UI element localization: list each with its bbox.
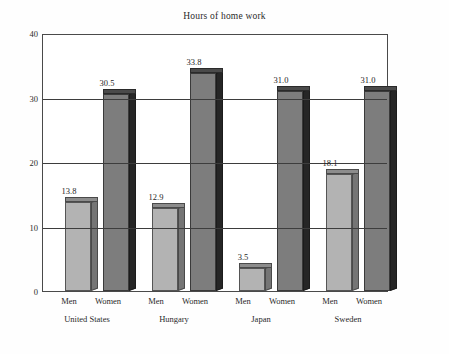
bar-united-states-men[interactable] bbox=[65, 202, 91, 291]
x-label-united-states-women: Women bbox=[86, 296, 130, 306]
bar-side-face bbox=[91, 199, 98, 291]
x-label-japan-women: Women bbox=[260, 296, 304, 306]
x-label-united-states-men: Men bbox=[50, 296, 88, 306]
x-group-label-hungary: Hungary bbox=[130, 314, 218, 324]
bar-value-japan-women: 31.0 bbox=[264, 75, 298, 85]
bar-front-face bbox=[326, 174, 352, 291]
bar-front-face bbox=[190, 73, 216, 291]
bar-value-hungary-men: 12.9 bbox=[139, 192, 173, 202]
y-axis: 0 10 20 30 40 bbox=[0, 34, 38, 292]
x-group-label-sweden: Sweden bbox=[304, 314, 392, 324]
bar-value-sweden-men: 18.1 bbox=[313, 158, 347, 168]
bar-side-face bbox=[178, 205, 185, 291]
bar-japan-men[interactable] bbox=[239, 268, 265, 291]
bar-top-face bbox=[326, 169, 359, 174]
bar-side-face bbox=[352, 171, 359, 291]
bar-hungary-women[interactable] bbox=[190, 73, 216, 291]
bar-front-face bbox=[103, 94, 129, 291]
bar-sweden-men[interactable] bbox=[326, 174, 352, 291]
gridline-10 bbox=[43, 228, 387, 229]
y-tick-label-10: 10 bbox=[4, 223, 38, 233]
x-label-sweden-women: Women bbox=[347, 296, 391, 306]
bar-sweden-women[interactable] bbox=[364, 91, 390, 291]
y-tick-label-20: 20 bbox=[4, 158, 38, 168]
x-group-label-united-states: United States bbox=[42, 314, 132, 324]
x-group-label-japan: Japan bbox=[217, 314, 305, 324]
bar-side-face bbox=[303, 88, 310, 291]
bar-value-sweden-women: 31.0 bbox=[351, 75, 385, 85]
y-tick-label-30: 30 bbox=[4, 94, 38, 104]
bar-hungary-men[interactable] bbox=[152, 208, 178, 291]
bar-side-face bbox=[216, 70, 223, 291]
chart-title: Hours of home work bbox=[0, 11, 449, 21]
gridline-30 bbox=[43, 99, 387, 100]
bar-top-face bbox=[277, 86, 310, 91]
bar-front-face bbox=[65, 202, 91, 291]
chart-page: Hours of home work 0 10 20 30 40 bbox=[0, 0, 449, 354]
bar-value-united-states-men: 13.8 bbox=[52, 186, 86, 196]
bar-front-face bbox=[152, 208, 178, 291]
bar-top-face bbox=[152, 203, 185, 208]
bar-japan-women[interactable] bbox=[277, 91, 303, 291]
bar-side-face bbox=[129, 91, 136, 291]
bar-united-states-women[interactable] bbox=[103, 94, 129, 291]
bar-top-face bbox=[190, 68, 223, 73]
x-label-japan-men: Men bbox=[224, 296, 262, 306]
y-tick-label-40: 40 bbox=[4, 29, 38, 39]
bar-value-hungary-women: 33.8 bbox=[177, 57, 211, 67]
bar-top-face bbox=[65, 197, 98, 202]
x-label-hungary-women: Women bbox=[173, 296, 217, 306]
bar-value-united-states-women: 30.5 bbox=[90, 78, 124, 88]
y-tick-label-0: 0 bbox=[4, 287, 38, 297]
bar-front-face bbox=[364, 91, 390, 291]
bar-top-face bbox=[364, 86, 397, 91]
bar-side-face bbox=[265, 265, 272, 291]
bar-value-japan-men: 3.5 bbox=[226, 252, 260, 262]
x-label-hungary-men: Men bbox=[137, 296, 175, 306]
bar-side-face bbox=[390, 88, 397, 291]
bar-front-face bbox=[239, 268, 265, 291]
x-label-sweden-men: Men bbox=[311, 296, 349, 306]
bar-front-face bbox=[277, 91, 303, 291]
bar-top-face bbox=[103, 89, 136, 94]
bar-top-face bbox=[239, 263, 272, 268]
